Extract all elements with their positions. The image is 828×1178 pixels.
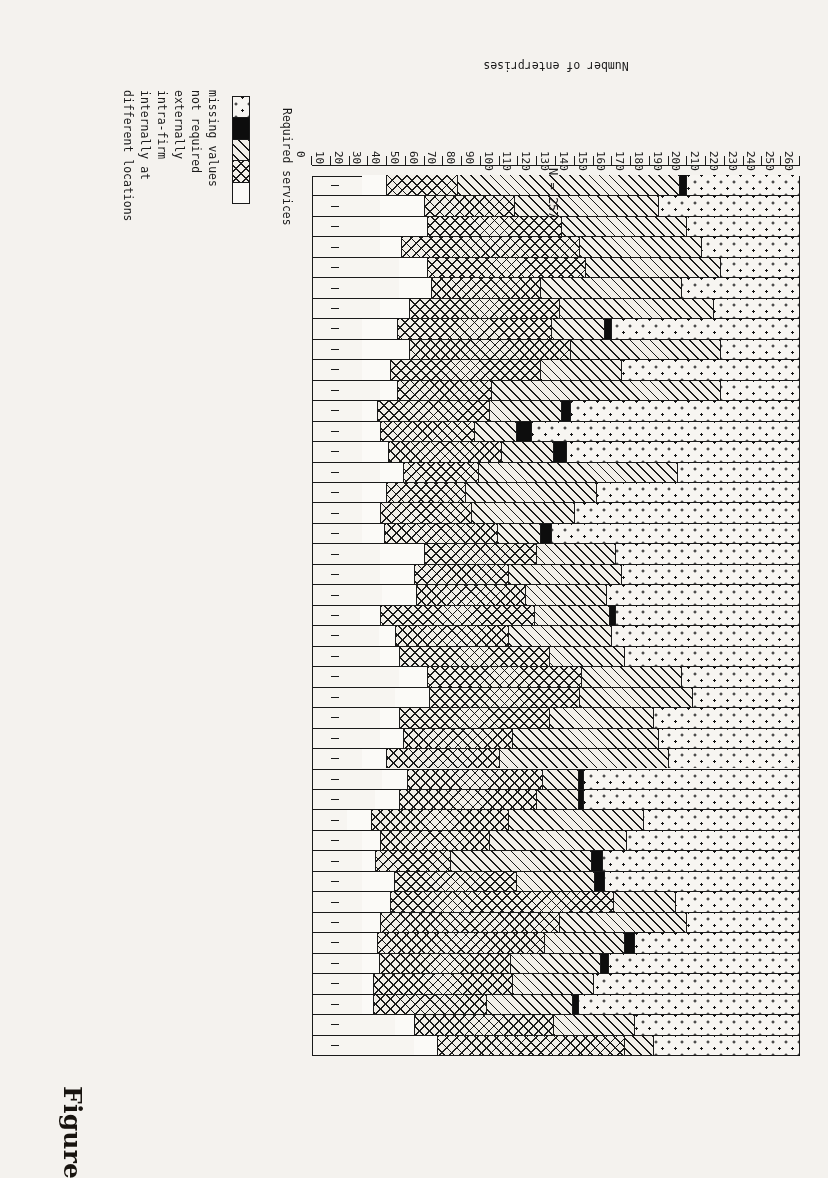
value-tick-label: 230 xyxy=(726,151,739,171)
value-tick xyxy=(630,156,631,165)
bar-segment-missing-values xyxy=(380,647,399,666)
value-axis: 0102030405060708090100110120130140150160… xyxy=(312,165,800,166)
bar-segment-internally-at-different-locations xyxy=(596,483,799,502)
bar-row xyxy=(313,994,799,1014)
bar-segment-not-required xyxy=(427,667,581,686)
bar-segment-not-required xyxy=(380,831,489,850)
bar-segment-internally-at-different-locations xyxy=(566,442,799,461)
bar-segment-not-required xyxy=(380,503,470,522)
bar-segment-externally xyxy=(486,995,572,1014)
category-tick-right xyxy=(331,881,339,882)
value-tick xyxy=(311,156,312,165)
category-tick-right xyxy=(331,861,339,862)
category-tick-right xyxy=(331,615,339,616)
value-tick-label: 80 xyxy=(444,151,457,164)
bar-segment-internally-at-different-locations xyxy=(653,708,799,727)
bar-segment-internally-at-different-locations xyxy=(615,606,799,625)
category-tick-right xyxy=(331,533,339,534)
legend-label: internally at xyxy=(138,90,152,180)
category-tick-right xyxy=(331,922,339,923)
value-tick-label: 100 xyxy=(482,151,495,171)
value-tick-label: 150 xyxy=(576,151,589,171)
bar-segment-not-required xyxy=(424,196,514,215)
bar-segment-externally xyxy=(508,626,611,645)
legend-swatch-externally xyxy=(233,139,249,160)
category-tick-right xyxy=(331,329,339,330)
category-tick-right xyxy=(331,390,339,391)
bar-segment-externally xyxy=(549,647,624,666)
bar-row xyxy=(313,932,799,952)
category-tick-right xyxy=(331,513,339,514)
bar-row xyxy=(313,462,799,482)
bar-segment-internally-at-different-locations xyxy=(593,974,799,993)
bar-segment-missing-values xyxy=(362,974,373,993)
bar-segment-internally-at-different-locations xyxy=(713,299,799,318)
bar-segment-missing-values xyxy=(347,810,371,829)
bar-row xyxy=(313,769,799,789)
bar-segment-intra-firm xyxy=(561,401,570,420)
bar-segment-internally-at-different-locations xyxy=(621,565,799,584)
bar-segment-missing-values xyxy=(395,688,429,707)
bar-segment-internally-at-different-locations xyxy=(720,381,799,400)
category-tick-right xyxy=(331,758,339,759)
bar-segment-missing-values xyxy=(362,872,394,891)
bar-row xyxy=(313,400,799,420)
bar-segment-externally xyxy=(514,196,659,215)
legend-swatch-internally xyxy=(233,97,249,117)
value-tick-label: 50 xyxy=(388,151,401,164)
bar-segment-not-required xyxy=(384,524,497,543)
bar-segment-not-required xyxy=(377,933,544,952)
chart-plot-area xyxy=(312,176,800,1056)
bar-segment-missing-values xyxy=(399,667,427,686)
value-tick-label: 210 xyxy=(688,151,701,171)
bar-row xyxy=(313,298,799,318)
value-tick-label: 10 xyxy=(313,151,326,164)
value-tick-label: 70 xyxy=(425,151,438,164)
category-tick-right xyxy=(331,431,339,432)
value-tick xyxy=(461,156,462,165)
bar-segment-internally-at-different-locations xyxy=(677,463,799,482)
bar-segment-missing-values xyxy=(382,770,406,789)
bar-segment-missing-values xyxy=(362,483,386,502)
bar-segment-externally xyxy=(525,585,606,604)
bar-segment-internally-at-different-locations xyxy=(686,217,799,236)
bar-segment-internally-at-different-locations xyxy=(583,770,799,789)
bar-segment-internally-at-different-locations xyxy=(611,319,799,338)
bar-segment-internally-at-different-locations xyxy=(611,626,799,645)
value-tick xyxy=(574,156,575,165)
bar-segment-internally-at-different-locations xyxy=(531,422,799,441)
bar-segment-intra-firm xyxy=(572,995,578,1014)
bar-row xyxy=(313,277,799,297)
bar-segment-externally xyxy=(457,175,678,195)
bar-segment-missing-values xyxy=(362,340,409,359)
category-tick-right xyxy=(331,226,339,227)
bar-segment-not-required xyxy=(397,319,551,338)
bar-row xyxy=(313,543,799,563)
bar-segment-internally-at-different-locations xyxy=(551,524,799,543)
bar-segment-intra-firm xyxy=(600,954,608,973)
bar-row xyxy=(313,891,799,911)
value-tick-label: 170 xyxy=(613,151,626,171)
bar-segment-externally xyxy=(465,483,596,502)
bar-segment-intra-firm xyxy=(604,319,612,338)
legend-label: missing values xyxy=(206,90,220,187)
bar-segment-externally xyxy=(549,708,652,727)
bar-row xyxy=(313,584,799,604)
bar-segment-missing-values xyxy=(362,831,381,850)
category-tick-right xyxy=(331,410,339,411)
bar-segment-missing-values xyxy=(362,892,390,911)
bar-segment-missing-values xyxy=(380,299,408,318)
category-tick-right xyxy=(331,308,339,309)
bar-segment-not-required xyxy=(437,1036,625,1055)
bar-segment-internally-at-different-locations xyxy=(626,831,799,850)
category-tick-right xyxy=(331,799,339,800)
bar-row xyxy=(313,216,799,236)
bar-segment-internally-at-different-locations xyxy=(720,340,799,359)
bar-row xyxy=(313,1035,799,1055)
bar-segment-externally xyxy=(499,749,668,768)
bar-segment-missing-values xyxy=(362,319,398,338)
value-tick-label: 250 xyxy=(763,151,776,171)
category-tick-right xyxy=(331,779,339,780)
bar-segment-not-required xyxy=(390,360,540,379)
bar-row xyxy=(313,707,799,727)
